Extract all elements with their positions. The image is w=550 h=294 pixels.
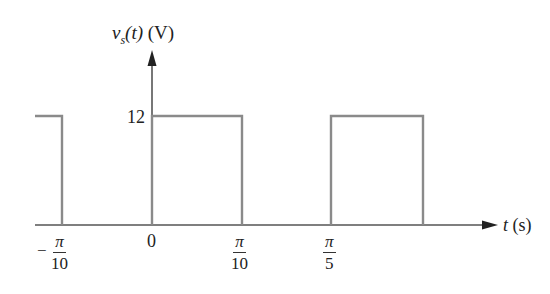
x-tick-pi10-den: 10 — [231, 253, 248, 272]
x-label-var: t — [503, 215, 508, 235]
y-label-unit: (V) — [148, 22, 174, 43]
y-tick-12: 12 — [127, 108, 145, 126]
waveform-left-pulse — [35, 116, 62, 225]
square-wave-plot — [0, 0, 550, 294]
x-tick-pi5-num: π — [323, 233, 336, 253]
x-tick-pi10-num: π — [233, 233, 246, 253]
y-label-arg: (t) — [125, 22, 143, 43]
x-tick-neg-pi-over-10: π 10 — [51, 233, 68, 272]
x-tick-zero: 0 — [147, 232, 156, 250]
x-axis-arrow-icon — [482, 221, 498, 230]
waveform-pulse-2 — [331, 116, 423, 225]
x-label-unit: (s) — [513, 215, 532, 235]
y-axis-label: vs(t) (V) — [112, 23, 174, 46]
x-axis-label: t (s) — [503, 216, 532, 234]
waveform-pulse-1 — [152, 116, 242, 225]
x-tick-neg-sign: − — [37, 242, 47, 259]
y-axis-arrow-icon — [148, 50, 157, 66]
x-tick-pi-over-10: π 10 — [231, 233, 248, 272]
x-tick-neg-den: 10 — [51, 253, 68, 272]
x-tick-neg-num: π — [53, 233, 66, 253]
x-tick-pi-over-5: π 5 — [323, 233, 336, 272]
x-tick-pi5-den: 5 — [325, 253, 334, 272]
